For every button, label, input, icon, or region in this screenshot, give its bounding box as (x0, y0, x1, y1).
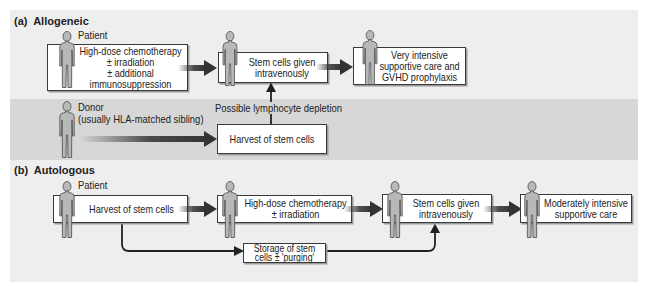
text-line: Stem cells given (413, 198, 480, 209)
patient-label: Patient (78, 179, 107, 191)
text-line: Moderately intensive (544, 198, 628, 209)
text-line: cells ± 'purging' (255, 253, 314, 263)
autologous-infusion-text: Stem cells given intravenously (407, 195, 485, 222)
text-line: ± irradiation (272, 209, 320, 220)
arrow-right-icon (483, 201, 523, 217)
arrow-right-icon (178, 201, 218, 217)
patient-person-icon (57, 181, 77, 239)
storage-box: Storage of stem cells ± 'purging' (243, 243, 326, 263)
text-line: intravenously (419, 209, 473, 220)
patient-person-icon (385, 181, 405, 239)
patient-person-icon (522, 181, 542, 239)
text-line: supportive care (555, 209, 617, 220)
arrow-right-icon (344, 201, 384, 217)
autologous-harvest-text: Harvest of stem cells (83, 196, 180, 222)
autologous-supportive-care-text: Moderately intensive supportive care (547, 195, 625, 222)
storage-text: Storage of stem cells ± 'purging' (249, 244, 319, 262)
patient-person-icon (220, 181, 240, 239)
autologous-conditioning-text: High-dose chemotherapy ± irradiation (247, 196, 344, 222)
text-line: Harvest of stem cells (89, 204, 174, 215)
